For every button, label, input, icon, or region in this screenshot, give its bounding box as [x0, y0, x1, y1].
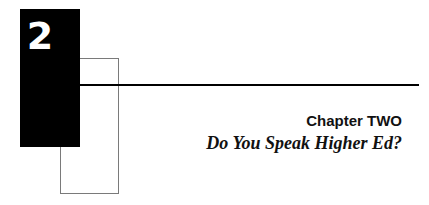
horizontal-rule: [80, 84, 419, 86]
chapter-label: Chapter TWO: [306, 112, 402, 129]
chapter-title: Do You Speak Higher Ed?: [206, 133, 402, 154]
chapter-number: 2: [20, 14, 60, 58]
